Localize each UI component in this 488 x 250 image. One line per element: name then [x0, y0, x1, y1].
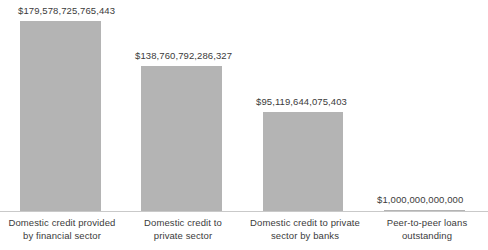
- bar-value-label-2: $138,760,792,286,327: [135, 50, 232, 61]
- category-label-1-line-2: by financial sector: [0, 230, 124, 243]
- category-label-2: Domestic credit to private sector: [126, 217, 240, 242]
- category-label-4-line-1: Peer-to-peer loans: [370, 217, 484, 230]
- bar-value-label-3: $95,119,644,075,403: [256, 96, 347, 107]
- bar-chart: $179,578,725,765,443 $138,760,792,286,32…: [0, 0, 488, 250]
- category-label-3: Domestic credit to private sector by ban…: [243, 217, 367, 242]
- category-label-1: Domestic credit provided by financial se…: [0, 217, 124, 242]
- bar-value-label-1: $179,578,725,765,443: [18, 5, 115, 16]
- category-label-2-line-1: Domestic credit to: [126, 217, 240, 230]
- bar-domestic-credit-provided-by-financial-sector: [20, 21, 101, 211]
- bar-value-label-4: $1,000,000,000,000: [377, 194, 463, 205]
- category-label-1-line-1: Domestic credit provided: [0, 217, 124, 230]
- category-label-3-line-1: Domestic credit to private: [243, 217, 367, 230]
- category-label-4-line-2: outstanding: [370, 230, 484, 243]
- bar-domestic-credit-to-private-sector: [141, 66, 222, 211]
- category-label-4: Peer-to-peer loans outstanding: [370, 217, 484, 242]
- category-label-3-line-2: sector by banks: [243, 230, 367, 243]
- axis-baseline: [0, 211, 488, 212]
- category-label-2-line-2: private sector: [126, 230, 240, 243]
- bar-domestic-credit-to-private-sector-by-banks: [263, 112, 343, 211]
- category-axis-labels: Domestic credit provided by financial se…: [0, 213, 488, 250]
- plot-area: $179,578,725,765,443 $138,760,792,286,32…: [0, 0, 488, 211]
